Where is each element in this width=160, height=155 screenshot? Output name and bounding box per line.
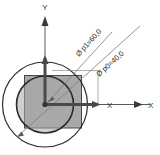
cad-drawing: Y X X Ø p1=60,0 Ø p0=40,0 xyxy=(0,0,160,155)
x-axis-label-inner: X xyxy=(107,101,113,110)
cad-diagram-canvas: Y X X Ø p1=60,0 Ø p0=40,0 xyxy=(0,0,160,155)
origin-point[interactable] xyxy=(42,102,47,107)
y-axis-label: Y xyxy=(42,3,48,12)
x-axis-label-outer: X xyxy=(148,101,154,110)
